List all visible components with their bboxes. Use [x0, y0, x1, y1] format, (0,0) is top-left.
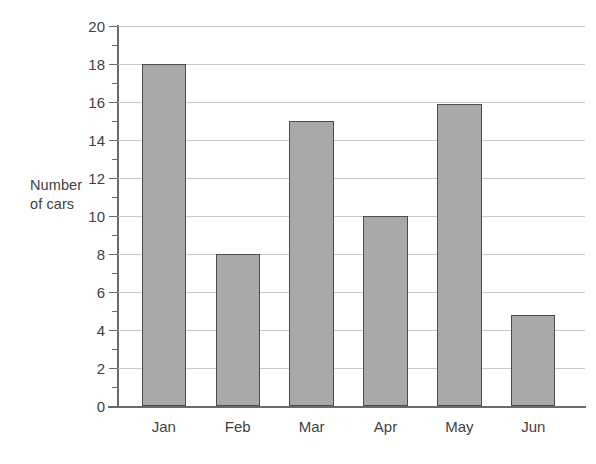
x-axis-tick-label: Apr [374, 418, 397, 435]
y-axis-tick-label: 14 [88, 132, 105, 149]
y-axis-minor-tick [112, 121, 118, 122]
y-axis-minor-tick [112, 387, 118, 388]
y-axis-minor-tick [112, 159, 118, 160]
gridline [118, 292, 585, 293]
bar-feb [216, 254, 260, 406]
bar-jan [142, 64, 186, 406]
bar-apr [363, 216, 407, 406]
gridline [118, 102, 585, 103]
x-axis-tick-label: Feb [225, 418, 251, 435]
gridline [118, 216, 585, 217]
y-axis-tick-label: 18 [88, 56, 105, 73]
gridline [118, 140, 585, 141]
plot-area: 02468101214161820 JanFebMarAprMayJun [118, 26, 585, 406]
y-axis-minor-tick [112, 197, 118, 198]
x-axis-line [108, 406, 586, 408]
y-axis-tick-label: 20 [88, 18, 105, 35]
y-axis-tick-label: 12 [88, 170, 105, 187]
y-axis-minor-tick [112, 45, 118, 46]
y-axis-major-tick [109, 178, 118, 179]
y-axis-major-tick [109, 368, 118, 369]
bar-jun [511, 315, 555, 406]
y-axis-major-tick [109, 102, 118, 103]
y-axis-tick-label: 10 [88, 208, 105, 225]
y-axis-minor-tick [112, 83, 118, 84]
y-axis-tick-label: 16 [88, 94, 105, 111]
x-axis-tick-label: Jan [152, 418, 176, 435]
y-axis-major-tick [109, 406, 118, 407]
y-axis-minor-tick [112, 235, 118, 236]
y-axis-minor-tick [112, 349, 118, 350]
bar-may [437, 104, 481, 406]
y-axis-major-tick [109, 140, 118, 141]
y-axis-tick-label: 2 [97, 360, 105, 377]
y-axis-major-tick [109, 292, 118, 293]
y-axis-minor-tick [112, 311, 118, 312]
y-axis-minor-tick [112, 273, 118, 274]
y-axis-major-tick [109, 26, 118, 27]
gridline [118, 178, 585, 179]
y-axis-major-tick [109, 216, 118, 217]
x-axis-tick-label: Jun [521, 418, 545, 435]
y-axis-tick-label: 0 [97, 398, 105, 415]
y-axis-tick-label: 4 [97, 322, 105, 339]
y-axis-major-tick [109, 330, 118, 331]
x-axis-tick-label: Mar [299, 418, 325, 435]
gridline [118, 254, 585, 255]
y-axis-tick-label: 8 [97, 246, 105, 263]
bar-mar [289, 121, 333, 406]
y-axis-major-tick [109, 64, 118, 65]
x-axis-tick-label: May [445, 418, 473, 435]
y-axis-major-tick [109, 254, 118, 255]
y-axis-tick-label: 6 [97, 284, 105, 301]
gridline [118, 64, 585, 65]
gridline [118, 26, 585, 27]
bar-chart: Number of cars 02468101214161820 JanFebM… [0, 0, 596, 464]
